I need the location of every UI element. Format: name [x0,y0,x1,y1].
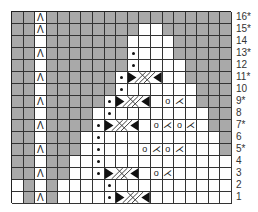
k2tog-icon: ⋌ [151,144,162,155]
chart-cell: Λ [35,12,47,24]
chart-cell [151,192,163,204]
purl-dot-icon [128,48,139,59]
chart-cell [116,132,128,144]
chart-cell [151,36,163,48]
chart-cell [24,192,36,204]
yarn-over-icon: o [139,144,150,155]
chart-cell [105,96,117,108]
chart-cell: o [163,96,175,108]
chart-cell [47,12,59,24]
row-label: 4 [236,155,242,167]
row-label: 6 [236,131,242,143]
chart-cell [197,132,209,144]
chart-cell [93,72,105,84]
chart-cell [151,24,163,36]
chart-cell [35,132,47,144]
chart-cell: o [174,120,186,132]
chart-cell [81,36,93,48]
decrease-icon: Λ [35,12,46,23]
chart-cell [93,84,105,96]
chart-cell [163,24,175,36]
chart-cell [209,60,221,72]
chart-cell [24,108,36,120]
chart-cell [93,24,105,36]
chart-cell [151,156,163,168]
row-label: 10 [236,83,247,95]
chart-cell [24,96,36,108]
decrease-icon: Λ [35,72,46,83]
chart-cell: Λ [35,192,47,204]
chart-cell [197,36,209,48]
row-label: 12 [236,59,247,71]
chart-cell [47,48,59,60]
chart-cell [12,192,24,204]
chart-cell [186,12,198,24]
chart-cell [12,84,24,96]
purl-dot-icon [93,132,104,143]
chart-cell [70,192,82,204]
chart-cell [105,36,117,48]
chart-cell [220,192,232,204]
chart-cell [197,108,209,120]
chart-cell [139,156,151,168]
chart-cell [58,156,70,168]
chart-cell [186,36,198,48]
chart-cell [116,24,128,36]
chart-cell [197,192,209,204]
chart-cell: Λ [35,120,47,132]
chart-cell [174,168,186,180]
chart-cell [151,96,163,108]
chart-cell [93,12,105,24]
chart-cell [35,36,47,48]
chart-cell [209,120,221,132]
chart-cell [35,156,47,168]
chart-cell [128,132,140,144]
chart-cell [163,60,175,72]
chart-cell [116,60,128,72]
chart-cell [186,192,198,204]
chart-cell [70,36,82,48]
yarn-over-icon: o [151,168,162,179]
chart-cell [186,156,198,168]
chart-cell [70,168,82,180]
chart-cell [24,60,36,72]
chart-cell [174,132,186,144]
chart-cell [163,48,175,60]
chart-cell [220,48,232,60]
chart-cell [116,48,128,60]
chart-cell [209,36,221,48]
chart-cell [151,132,163,144]
chart-cell [58,48,70,60]
row-label: 16* [236,11,251,23]
chart-cell [70,12,82,24]
purl-dot-icon [105,108,116,119]
chart-cell: Λ [35,168,47,180]
chart-cell [151,180,163,192]
chart-cell [70,84,82,96]
chart-cell [209,12,221,24]
chart-cell [139,84,151,96]
chart-cell [12,36,24,48]
chart-cell [70,144,82,156]
chart-cell [197,156,209,168]
decrease-icon: Λ [35,144,46,155]
chart-cell [128,60,140,72]
chart-cell [163,156,175,168]
chart-cell [70,96,82,108]
chart-cell [70,180,82,192]
chart-cell [128,144,140,156]
chart-cell [58,132,70,144]
purl-dot-icon [93,168,104,179]
chart-cell [105,156,117,168]
decrease-icon: Λ [35,24,46,35]
cable-cross-icon [116,96,151,108]
chart-cell [174,108,186,120]
chart-cell [93,132,105,144]
purl-dot-icon [105,96,116,107]
chart-cell [209,168,221,180]
chart-cell [151,84,163,96]
chart-cell [81,84,93,96]
chart-cell [70,120,82,132]
chart-cell [24,72,36,84]
chart-cell [81,192,93,204]
